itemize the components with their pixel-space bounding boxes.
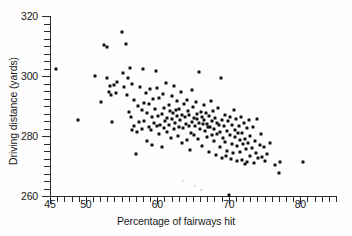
y-axis-tick-label: 300: [21, 71, 38, 82]
scatter-point: [178, 126, 181, 129]
scatter-point: [55, 68, 58, 71]
y-axis-major-tick: [42, 196, 50, 197]
scatter-point: [208, 151, 211, 154]
scatter-point: [240, 159, 243, 162]
scatter-point: [257, 156, 260, 159]
scatter-point: [183, 102, 186, 105]
x-axis-minor-tick: [143, 197, 144, 202]
scatter-point: [224, 141, 227, 144]
y-axis-minor-tick: [44, 189, 50, 190]
scatter-point: [217, 123, 220, 126]
scatter-point: [151, 144, 154, 147]
scatter-point: [109, 85, 112, 88]
scatter-point: [170, 95, 173, 98]
scatter-point: [195, 118, 198, 121]
x-axis-title: Percentage of fairways hit: [0, 215, 352, 227]
scan-artifact-speck: [182, 180, 184, 182]
y-axis-minor-tick: [44, 61, 50, 62]
scatter-point: [274, 164, 277, 167]
y-axis-minor-tick: [44, 99, 50, 100]
y-axis-minor-tick: [44, 144, 50, 145]
scatter-point: [149, 129, 152, 132]
scatter-point: [205, 122, 208, 125]
scatter-point: [222, 124, 225, 127]
y-axis-minor-tick: [44, 174, 50, 175]
scatter-point: [199, 110, 202, 113]
scatter-point: [244, 148, 247, 151]
scatter-point: [247, 141, 250, 144]
y-axis-minor-tick: [44, 84, 50, 85]
y-axis-minor-tick: [44, 121, 50, 122]
scatter-point: [233, 135, 236, 138]
scatter-point: [156, 87, 159, 90]
x-axis-minor-tick: [64, 197, 65, 202]
scatter-point: [192, 106, 195, 109]
x-axis-minor-tick: [214, 197, 215, 202]
y-axis-major-tick: [42, 76, 50, 77]
scatter-point: [198, 71, 201, 74]
scatter-point: [209, 125, 212, 128]
y-axis-minor-tick: [44, 46, 50, 47]
scatter-point: [204, 130, 207, 133]
scatter-point: [238, 150, 241, 153]
scatter-point: [177, 108, 180, 111]
scatter-point: [231, 123, 234, 126]
scatter-point: [228, 134, 231, 137]
scatter-point: [144, 92, 147, 95]
scatter-point: [244, 138, 247, 141]
scatter-point: [218, 146, 221, 149]
scatter-point: [155, 125, 158, 128]
y-axis-minor-tick: [44, 54, 50, 55]
scatter-point: [149, 87, 152, 90]
scatter-point: [114, 91, 117, 94]
scatter-point: [259, 133, 262, 136]
scatter-point: [140, 108, 143, 111]
scatter-point: [220, 118, 223, 121]
scatter-point: [160, 113, 163, 116]
scatter-point: [159, 123, 162, 126]
scatter-point: [232, 151, 235, 154]
scatter-point: [188, 114, 191, 117]
x-axis-minor-tick: [286, 197, 287, 202]
scatter-point: [269, 142, 272, 145]
scatter-point: [173, 84, 176, 87]
x-axis-minor-tick: [122, 197, 123, 202]
scatter-point: [210, 134, 213, 137]
x-axis-tick-label: 50: [80, 199, 91, 210]
scatter-point: [199, 128, 202, 131]
x-axis-minor-tick: [265, 197, 266, 202]
y-axis-minor-tick: [44, 129, 50, 130]
y-axis-tick-label: 320: [21, 11, 38, 22]
scatter-point: [167, 104, 170, 107]
scatter-point: [126, 77, 129, 80]
scatter-point: [194, 100, 197, 103]
scatter-point: [129, 66, 132, 69]
scatter-point: [219, 77, 222, 80]
scatter-point: [250, 147, 253, 150]
scatter-point: [150, 115, 153, 118]
x-axis-minor-tick: [72, 197, 73, 202]
x-axis-minor-tick: [336, 197, 337, 202]
scatter-point: [258, 144, 261, 147]
scatter-point: [256, 117, 259, 120]
y-axis-minor-tick: [44, 106, 50, 107]
x-axis-minor-tick: [236, 197, 237, 202]
x-axis-minor-tick: [136, 197, 137, 202]
scatter-point: [242, 142, 245, 145]
scatter-point: [239, 139, 242, 142]
x-axis-minor-tick: [172, 197, 173, 202]
scatter-point: [222, 137, 225, 140]
scatter-point: [234, 128, 237, 131]
scatter-point: [146, 140, 149, 143]
scatter-point: [232, 108, 235, 111]
scatter-point: [131, 82, 134, 85]
x-axis-minor-tick: [307, 197, 308, 202]
scatter-point: [165, 131, 168, 134]
plot-data-area: [50, 16, 336, 196]
scatter-point: [237, 132, 240, 135]
y-axis-major-tick: [42, 16, 50, 17]
x-axis-minor-tick: [272, 197, 273, 202]
scatter-point: [106, 76, 109, 79]
scatter-point: [187, 109, 190, 112]
scatter-point: [105, 46, 108, 49]
